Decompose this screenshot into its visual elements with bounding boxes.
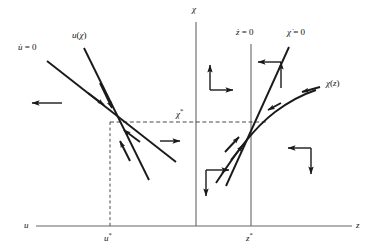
nullcline-label-chi-dot-zero: χ̇ = 0 [287, 28, 305, 37]
nullcline-label-z-dot-zero: ż = 0 [236, 28, 254, 37]
chi-dot-zero-curve [226, 47, 289, 186]
right-curve-arrowheads [225, 87, 320, 160]
u-of-chi-curve [84, 48, 149, 180]
diagram-canvas [0, 0, 373, 252]
tick-label-u-star: u* [104, 232, 112, 243]
nullcline-label-chi-of-z: χ(z) [326, 79, 339, 88]
phase-diagram-figure: u z χ u* z* χ* u̇ = 0 u(χ) ż = 0 χ̇ = 0… [0, 0, 373, 252]
nullcline-label-u-dot-zero: u̇ = 0 [18, 43, 37, 52]
nullcline-label-u-of-chi: u(χ) [72, 31, 86, 40]
flow-arrow-lower-mid [206, 170, 229, 196]
axis-label-u: u [24, 221, 29, 230]
u-dot-zero-curve [47, 61, 176, 162]
flow-arrow-upper-mid [210, 65, 233, 90]
chi-of-z-curve [216, 90, 316, 183]
tick-label-chi-star: χ* [176, 108, 183, 119]
axis-label-chi: χ [192, 5, 196, 14]
tick-label-z-star: z* [246, 232, 253, 243]
axis-label-z: z [356, 221, 360, 230]
flow-arrow-lower-right [288, 148, 311, 174]
flow-arrow-upper-right [258, 62, 281, 88]
